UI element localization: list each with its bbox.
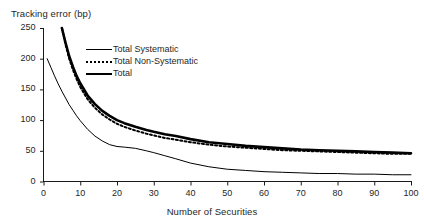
x-axis-tick-label: 50 xyxy=(212,188,242,198)
y-axis-tick-label: 250 xyxy=(6,22,36,32)
legend-item-label: Total Systematic xyxy=(112,44,179,54)
chart-legend: Total Systematic Total Non-Systematic To… xyxy=(86,43,198,79)
thin-solid-line-swatch-icon xyxy=(86,43,112,54)
x-axis-tick-label: 70 xyxy=(286,188,316,198)
x-axis-tick-label: 80 xyxy=(323,188,353,198)
y-axis-ticks xyxy=(40,29,44,183)
y-axis-tick-label: 0 xyxy=(6,176,36,186)
thick-solid-line-swatch-icon xyxy=(86,67,112,78)
legend-item-total-systematic: Total Systematic xyxy=(86,43,198,54)
x-axis-tick-label: 20 xyxy=(102,188,132,198)
x-axis-tick-label: 30 xyxy=(139,188,169,198)
legend-item-total-non-systematic: Total Non-Systematic xyxy=(86,55,198,66)
x-axis-tick-label: 10 xyxy=(65,188,95,198)
x-axis-title: Number of Securities xyxy=(0,206,424,217)
x-axis-tick-label: 40 xyxy=(176,188,206,198)
chart-figure: Tracking error (bp) 250200150100500 0102… xyxy=(0,0,424,224)
legend-item-label: Total xyxy=(112,68,132,78)
legend-item-label: Total Non-Systematic xyxy=(112,56,198,66)
x-axis-tick-label: 90 xyxy=(359,188,389,198)
legend-item-total: Total xyxy=(86,67,198,78)
x-axis-tick-label: 100 xyxy=(396,188,424,198)
y-axis-tick-label: 200 xyxy=(6,53,36,63)
x-axis-tick-label: 0 xyxy=(29,188,59,198)
y-axis-tick-label: 100 xyxy=(6,114,36,124)
y-axis-tick-label: 50 xyxy=(6,145,36,155)
x-axis-tick-label: 60 xyxy=(249,188,279,198)
y-axis-tick-label: 150 xyxy=(6,83,36,93)
dotted-line-swatch-icon xyxy=(86,55,112,66)
x-axis-ticks xyxy=(44,182,412,186)
